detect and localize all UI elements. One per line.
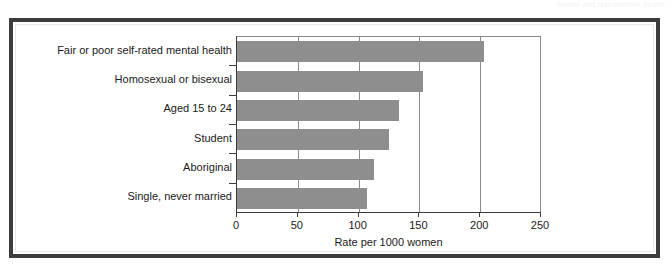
bar (237, 41, 484, 62)
x-axis-tick (236, 213, 237, 217)
bar (237, 159, 374, 180)
category-label: Aboriginal (22, 162, 232, 173)
y-axis-tick (229, 124, 237, 125)
gridline (419, 37, 420, 212)
category-axis-labels: Fair or poor self-rated mental healthHom… (19, 36, 232, 212)
x-axis-tick (540, 213, 541, 217)
category-label: Fair or poor self-rated mental health (22, 45, 232, 56)
x-axis-tick (358, 213, 359, 217)
category-label: Homosexual or bisexual (22, 74, 232, 85)
category-label: Aged 15 to 24 (22, 103, 232, 114)
x-axis-tick-label: 200 (470, 220, 488, 231)
bar-row (237, 41, 541, 62)
bar-row (237, 129, 541, 150)
x-axis-tick-label: 150 (409, 220, 427, 231)
figure-frame: Fair or poor self-rated mental healthHom… (9, 18, 660, 258)
y-axis-tick (229, 183, 237, 184)
x-axis-tick (479, 213, 480, 217)
category-label: Single, never married (22, 191, 232, 202)
x-axis-tick-label: 0 (233, 220, 239, 231)
page-header-fragment: Sexual and reproductive health (400, 0, 665, 9)
gridline (480, 37, 481, 212)
bar (237, 100, 399, 121)
x-axis-title: Rate per 1000 women (236, 237, 541, 248)
y-axis-tick (229, 153, 237, 154)
bar (237, 71, 423, 92)
gridline (298, 37, 299, 212)
bar-row (237, 100, 541, 121)
x-axis-tick (297, 213, 298, 217)
y-axis-tick (229, 65, 237, 66)
x-axis-tick-label: 250 (531, 220, 549, 231)
plot-area (236, 36, 541, 212)
bar (237, 188, 367, 209)
bar-row (237, 159, 541, 180)
x-axis-tick (418, 213, 419, 217)
category-label: Student (22, 133, 232, 144)
bar (237, 129, 389, 150)
bar-row (237, 188, 541, 209)
horizontal-bar-chart: Fair or poor self-rated mental healthHom… (13, 22, 664, 262)
bar-row (237, 71, 541, 92)
x-axis-tick-label: 100 (348, 220, 366, 231)
y-axis-tick (229, 95, 237, 96)
x-axis-tick-label: 50 (291, 220, 303, 231)
x-axis-line (236, 212, 541, 213)
gridline (359, 37, 360, 212)
